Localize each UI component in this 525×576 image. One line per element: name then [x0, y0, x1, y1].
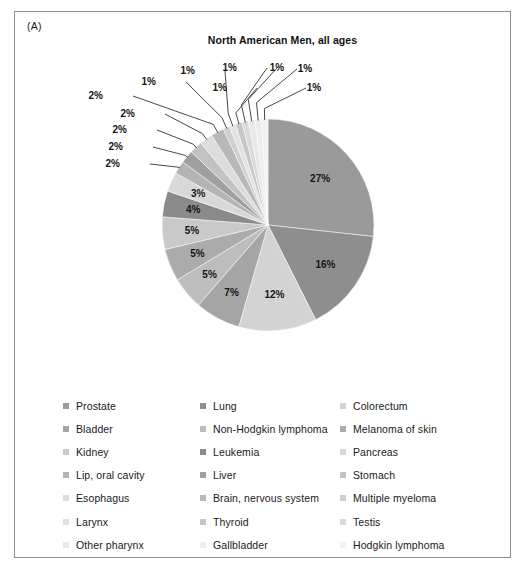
legend-item-label: Prostate	[76, 400, 116, 412]
legend-swatch-icon	[340, 403, 346, 409]
legend-item: Other pharynx	[63, 533, 144, 556]
legend-item-label: Esophagus	[76, 492, 129, 504]
legend-row: Lip, oral cavityLiverStomach	[15, 464, 512, 487]
legend-swatch-icon	[340, 519, 346, 525]
pie-slice-label: 2%	[113, 124, 128, 135]
legend-item: Stomach	[340, 464, 395, 487]
legend-swatch-icon	[200, 472, 206, 478]
pie-slice-label: 16%	[315, 259, 335, 270]
pie-chart-svg: 27%16%12%7%5%5%5%4%3%2%2%2%2%2%1%1%1%1%1…	[15, 12, 512, 392]
legend-item: Lip, oral cavity	[63, 464, 145, 487]
legend-item: Larynx	[63, 510, 108, 533]
legend-item-label: Pancreas	[353, 446, 398, 458]
legend-swatch-icon	[200, 495, 206, 501]
legend-item-label: Non-Hodgkin lymphoma	[213, 423, 328, 435]
legend-item: Melanoma of skin	[340, 417, 437, 440]
legend-item: Prostate	[63, 394, 116, 417]
pie-slice-label: 4%	[186, 204, 201, 215]
legend-swatch-icon	[340, 495, 346, 501]
legend-item: Leukemia	[200, 440, 259, 463]
legend-item-label: Lung	[213, 400, 237, 412]
legend-item: Pancreas	[340, 440, 398, 463]
pie-slice-label: 2%	[109, 141, 124, 152]
figure-panel: (A) North American Men, all ages 27%16%1…	[14, 11, 511, 558]
pie-slice-label: 5%	[202, 269, 217, 280]
pie-slice-label: 1%	[181, 65, 196, 76]
legend-item-label: Melanoma of skin	[353, 423, 437, 435]
legend-item-label: Lip, oral cavity	[76, 469, 145, 481]
legend-swatch-icon	[200, 426, 206, 432]
pie-slice-label: 1%	[142, 76, 157, 87]
legend-item: Gallbladder	[200, 533, 268, 556]
legend-swatch-icon	[340, 542, 346, 548]
legend-item-label: Multiple myeloma	[353, 492, 436, 504]
legend-item-label: Thyroid	[213, 516, 249, 528]
pie-slice-label: 1%	[223, 62, 238, 73]
legend-swatch-icon	[200, 449, 206, 455]
pie-slice-label: 1%	[270, 62, 285, 73]
legend-item-label: Larynx	[76, 516, 108, 528]
legend-item-label: Bladder	[76, 423, 113, 435]
pie-slice-label: 1%	[298, 63, 313, 74]
legend-swatch-icon	[63, 449, 69, 455]
pie-slice-label: 1%	[213, 82, 228, 93]
legend-item: Hodgkin lymphoma	[340, 533, 444, 556]
legend-item-label: Leukemia	[213, 446, 259, 458]
legend-swatch-icon	[340, 449, 346, 455]
legend-swatch-icon	[200, 403, 206, 409]
pie-leader-line	[150, 164, 180, 168]
legend-item-label: Hodgkin lymphoma	[353, 539, 444, 551]
legend-swatch-icon	[63, 403, 69, 409]
legend-row: Other pharynxGallbladderHodgkin lymphoma	[15, 533, 512, 556]
legend-row: ProstateLungColorectum	[15, 394, 512, 417]
legend-item: Colorectum	[340, 394, 408, 417]
chart-legend: ProstateLungColorectumBladderNon-Hodgkin…	[15, 394, 512, 557]
legend-item: Bladder	[63, 417, 113, 440]
legend-item-label: Testis	[353, 516, 380, 528]
legend-swatch-icon	[63, 519, 69, 525]
legend-row: EsophagusBrain, nervous systemMultiple m…	[15, 487, 512, 510]
legend-swatch-icon	[200, 542, 206, 548]
pie-leader-line	[257, 69, 298, 121]
pie-leader-line	[241, 68, 267, 123]
legend-swatch-icon	[340, 426, 346, 432]
pie-slice-label: 5%	[185, 225, 200, 236]
pie-leader-line	[225, 71, 233, 126]
pie-slice-label: 7%	[224, 287, 239, 298]
legend-item: Thyroid	[200, 510, 249, 533]
legend-item: Lung	[200, 394, 237, 417]
legend-item-label: Gallbladder	[213, 539, 268, 551]
legend-item: Liver	[200, 464, 236, 487]
legend-swatch-icon	[200, 519, 206, 525]
legend-swatch-icon	[63, 495, 69, 501]
legend-item-label: Kidney	[76, 446, 109, 458]
pie-slice-label: 3%	[191, 188, 206, 199]
pie-slice-label: 5%	[190, 248, 205, 259]
pie-leader-line	[248, 68, 277, 121]
legend-swatch-icon	[63, 542, 69, 548]
legend-item: Kidney	[63, 440, 109, 463]
pie-slice-label: 12%	[264, 289, 284, 300]
legend-item-label: Stomach	[353, 469, 395, 481]
legend-item: Non-Hodgkin lymphoma	[200, 417, 328, 440]
pie-slice-label: 2%	[89, 90, 104, 101]
legend-item: Testis	[340, 510, 380, 533]
pie-leader-line	[264, 88, 306, 120]
pie-slice-label: 2%	[121, 108, 136, 119]
legend-item: Brain, nervous system	[200, 487, 319, 510]
legend-row: BladderNon-Hodgkin lymphomaMelanoma of s…	[15, 417, 512, 440]
legend-item-label: Liver	[213, 469, 236, 481]
legend-item-label: Other pharynx	[76, 539, 144, 551]
pie-leader-line	[153, 147, 188, 157]
legend-swatch-icon	[340, 472, 346, 478]
pie-leader-line	[157, 130, 197, 148]
legend-item-label: Colorectum	[353, 400, 408, 412]
legend-row: LarynxThyroidTestis	[15, 510, 512, 533]
legend-item: Multiple myeloma	[340, 487, 436, 510]
pie-slice-label: 1%	[307, 82, 322, 93]
pie-slice-label: 2%	[106, 158, 121, 169]
pie-chart: 27%16%12%7%5%5%5%4%3%2%2%2%2%2%1%1%1%1%1…	[15, 12, 512, 392]
legend-swatch-icon	[63, 472, 69, 478]
legend-item-label: Brain, nervous system	[213, 492, 319, 504]
pie-slice-label: 27%	[310, 173, 330, 184]
